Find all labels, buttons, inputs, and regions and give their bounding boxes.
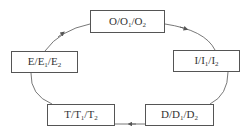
node-o: O/O1/O2	[90, 10, 165, 33]
node-e: E/E1/E2	[11, 51, 78, 73]
node-i: I/I1/I2	[173, 50, 240, 72]
node-o-label: O/O1/O2	[109, 15, 146, 29]
node-t-label: T/T1/T2	[64, 108, 97, 122]
edge-t-to-e	[31, 73, 52, 104]
node-i-label: I/I1/I2	[194, 54, 218, 68]
edge-i-to-d	[210, 72, 228, 104]
edge-o-to-i	[165, 24, 215, 50]
node-d-label: D/D1/D2	[161, 108, 198, 122]
node-d: D/D1/D2	[145, 104, 214, 126]
edge-e-to-o	[45, 24, 90, 51]
arrow-o-to-i	[180, 27, 186, 29]
node-e-label: E/E1/E2	[28, 55, 61, 69]
node-t: T/T1/T2	[47, 104, 115, 126]
